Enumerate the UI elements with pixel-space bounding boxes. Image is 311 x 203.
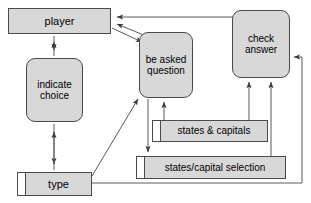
- node-states-and-capitals-label: states & capitals: [153, 125, 267, 137]
- node-player-label: player: [9, 15, 110, 28]
- object-compartment-icon: [137, 157, 145, 178]
- node-states-capital-selection-label: states/capital selection: [137, 162, 285, 174]
- object-compartment-icon: [153, 121, 161, 141]
- node-check-answer[interactable]: check answer: [232, 10, 290, 78]
- node-type-label: type: [18, 178, 91, 191]
- node-states-and-capitals[interactable]: states & capitals: [152, 120, 268, 142]
- node-check-answer-label: check answer: [233, 33, 289, 56]
- edge-type-to-be-asked-question: [92, 99, 138, 176]
- object-compartment-icon: [18, 173, 26, 195]
- node-indicate-choice[interactable]: indicate choice: [26, 58, 83, 122]
- node-type[interactable]: type: [17, 172, 92, 196]
- node-be-asked-question[interactable]: be asked question: [139, 32, 193, 98]
- node-be-asked-question-label: be asked question: [140, 54, 192, 77]
- node-states-capital-selection[interactable]: states/capital selection: [136, 156, 286, 179]
- node-player[interactable]: player: [8, 8, 111, 34]
- node-indicate-choice-label: indicate choice: [27, 79, 82, 102]
- diagram-canvas: player indicate choice type be asked que…: [0, 0, 311, 203]
